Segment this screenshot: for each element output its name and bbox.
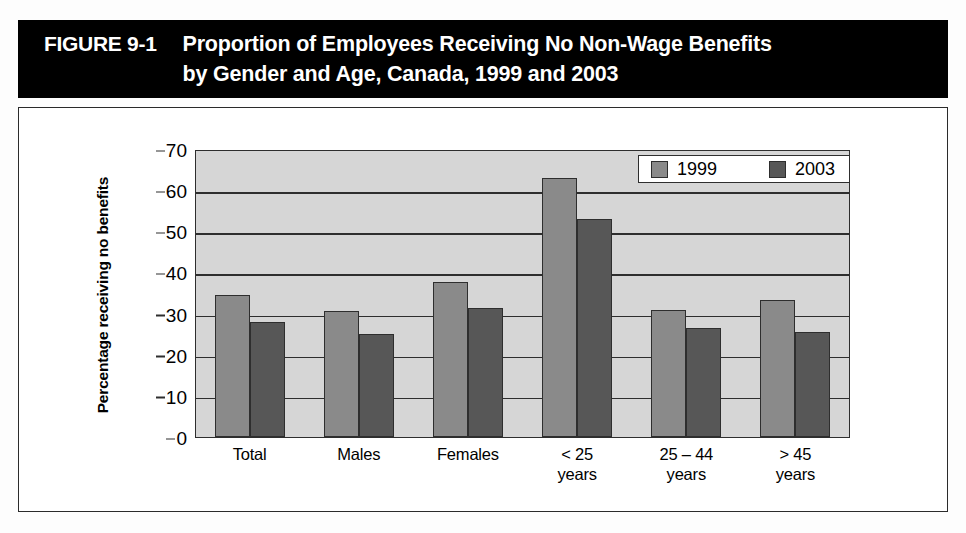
y-axis-tick-label: 30: [166, 305, 187, 324]
bar-2003-45-years: [795, 332, 830, 437]
y-axis-tick-mark: [156, 232, 165, 234]
bar-1999-25-44-years: [651, 310, 686, 437]
bar-1999-females: [433, 282, 468, 437]
bar-2003-25-44-years: [686, 328, 721, 437]
bar-group: [522, 151, 631, 437]
y-axis-tick-label: 60: [166, 182, 187, 201]
y-axis-tick-label: 70: [166, 141, 187, 160]
bars-layer: [196, 151, 849, 437]
y-axis-title: Percentage receiving no benefits: [94, 150, 116, 440]
y-axis-tick-label: 40: [166, 264, 187, 283]
bar-2003-males: [359, 334, 394, 437]
x-axis-tick-label: Males: [304, 444, 413, 484]
bar-1999-males: [324, 311, 359, 437]
y-axis-tick-mark: [156, 150, 165, 152]
bar-group: [196, 151, 305, 437]
bar-2003-total: [250, 322, 285, 437]
bar-group: [631, 151, 740, 437]
title-line-1: Proportion of Employees Receiving No Non…: [183, 29, 772, 59]
y-axis-tick-label: 0: [176, 429, 187, 448]
legend-label-1999: 1999: [677, 160, 717, 178]
figure-number-label: FIGURE 9-1: [44, 29, 183, 59]
bar-1999-25-years: [542, 178, 577, 437]
y-axis-tick-mark: [156, 397, 165, 399]
x-axis-tick-label: < 25years: [523, 444, 632, 484]
y-axis-tick-labels: 010203040506070: [139, 150, 187, 438]
y-axis-tick-mark: [166, 438, 175, 440]
y-axis-tick-label: 10: [166, 387, 187, 406]
y-axis-tick-label: 50: [166, 223, 187, 242]
y-axis-tick-label: 20: [166, 346, 187, 365]
title-line-2: by Gender and Age, Canada, 1999 and 2003: [183, 59, 772, 89]
y-axis-tick-mark: [156, 356, 165, 358]
legend-item-1999: 1999: [651, 160, 717, 178]
bar-2003-females: [468, 308, 503, 437]
x-axis-tick-label: 25 – 44years: [632, 444, 741, 484]
legend-swatch-icon-2003: [769, 161, 786, 178]
legend: 1999 2003: [638, 155, 850, 183]
figure-container: FIGURE 9-1 Proportion of Employees Recei…: [0, 0, 966, 533]
bar-group: [414, 151, 523, 437]
plot-wrapper: [195, 150, 850, 438]
bar-1999-45-years: [760, 300, 795, 437]
bar-group: [305, 151, 414, 437]
legend-swatch-icon-1999: [651, 161, 668, 178]
x-axis-tick-label: Total: [195, 444, 304, 484]
bar-group: [740, 151, 849, 437]
x-axis-tick-label: Females: [413, 444, 522, 484]
bar-2003-25-years: [577, 219, 612, 437]
bar-1999-total: [215, 295, 250, 437]
legend-item-2003: 2003: [769, 160, 835, 178]
legend-label-2003: 2003: [795, 160, 835, 178]
page-title: Proportion of Employees Receiving No Non…: [183, 29, 772, 89]
caption-sliver: [150, 524, 710, 533]
x-axis-tick-labels: TotalMalesFemales< 25years25 – 44years> …: [195, 444, 850, 484]
y-axis-tick-mark: [156, 315, 165, 317]
plot-area: [195, 150, 850, 438]
x-axis-tick-label: > 45years: [741, 444, 850, 484]
y-axis-tick-mark: [156, 273, 165, 275]
y-axis-tick-mark: [156, 191, 165, 193]
figure-title-bar: FIGURE 9-1 Proportion of Employees Recei…: [18, 20, 948, 98]
